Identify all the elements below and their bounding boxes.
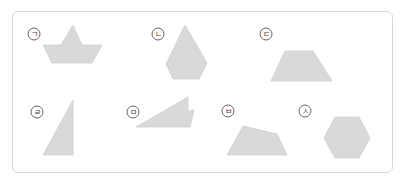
shape-group-nieun: ㄴ [152,25,207,79]
kite-shape [166,25,207,79]
shape-group-siot: ㅅ [299,105,370,158]
trapezoid-shape [271,51,332,81]
quadrilateral-shape [227,126,287,155]
shape-label: ㄴ [155,30,162,39]
boat-shape [43,25,102,63]
hexagon-shape [324,117,370,158]
shape-label: ㄹ [34,108,41,117]
shape-group-giyeok: ㄱ [28,25,102,63]
shape-label: ㅂ [225,107,232,116]
right-triangle-shape [43,100,73,155]
shape-group-mieum: ㅁ [127,97,194,127]
shape-group-rieul: ㄹ [31,100,73,155]
shape-label: ㅅ [302,107,309,116]
shape-label: ㄱ [31,30,38,39]
shape-label: ㄷ [263,30,270,39]
shape-group-bieup: ㅂ [222,105,287,155]
shape-label: ㅁ [130,108,137,117]
notched-triangle-shape [136,97,194,127]
shape-group-digeut: ㄷ [260,28,332,81]
shapes-canvas: ㄱ ㄴ ㄷ ㄹ ㅁ ㅂ ㅅ [0,0,404,184]
